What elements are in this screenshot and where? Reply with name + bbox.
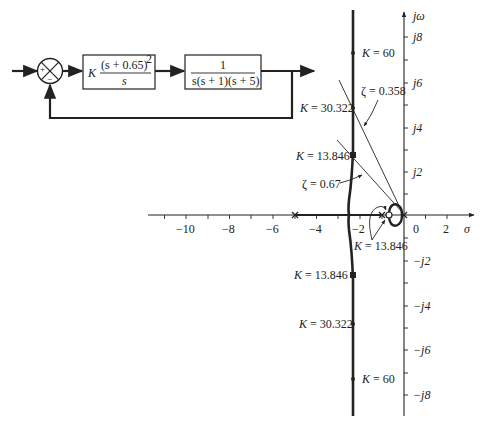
zeta-0358-leader xyxy=(364,100,378,126)
controller-denominator: s xyxy=(122,74,127,88)
zeta-067-label: ζ = 0.67 xyxy=(302,177,341,191)
block-diagram xyxy=(12,55,314,118)
plant-denominator: s(s + 1)(s + 5) xyxy=(192,74,260,88)
x-tick-label: 0 xyxy=(413,222,419,236)
x-tick-label: −8 xyxy=(222,222,235,236)
zero-marker-icon xyxy=(386,212,392,218)
x-tick-label: −10 xyxy=(176,222,195,236)
y-tick-label: j4 xyxy=(411,121,422,135)
x-tick-label: −4 xyxy=(309,222,322,236)
y-tick-label: −j6 xyxy=(413,343,430,357)
zeta-0358-line xyxy=(339,80,402,212)
k60-lower-label: K = 60 xyxy=(361,372,395,386)
x-tick-label: −2 xyxy=(352,222,365,236)
k13-real-label: K = 13.846 xyxy=(353,239,408,253)
y-tick-label: −j8 xyxy=(413,388,430,402)
imaginary-axis-label: jω xyxy=(411,9,425,23)
y-tick-label: −j4 xyxy=(413,299,430,313)
k60-upper-label: K = 60 xyxy=(361,46,395,60)
k13-lower-marker xyxy=(350,272,356,278)
plus-sign: + xyxy=(40,64,45,74)
lower-complex-branch xyxy=(349,215,354,416)
annotation-leaders xyxy=(340,100,386,240)
k13-lower-label: K = 13.846 xyxy=(293,268,348,282)
x-tick-label: 2 xyxy=(443,222,449,236)
y-tick-label: j8 xyxy=(411,30,422,44)
controller-numerator: (s + 0.65) xyxy=(101,58,147,72)
plant-numerator: 1 xyxy=(220,58,226,72)
controller-exponent: 2 xyxy=(146,52,152,66)
y-tick-label: j2 xyxy=(411,165,422,179)
controller-gain: K xyxy=(87,66,97,80)
k30-lower-label: K = 30.322 xyxy=(298,317,353,331)
y-tick-label: j6 xyxy=(411,76,422,90)
k13-real-leader-lower xyxy=(372,220,385,240)
zeta-0358-label: ζ = 0.358 xyxy=(361,84,406,98)
k13-upper-label: K = 13.846 xyxy=(295,149,350,163)
minus-sign: − xyxy=(47,74,52,84)
k30-upper-label: K = 30.322 xyxy=(299,101,354,115)
k13-real-leader-upper xyxy=(370,206,386,240)
real-axis-label: σ xyxy=(464,222,471,236)
root-locus-figure: + − K (s + 0.65) 2 s 1 s(s + 1)(s + 5) xyxy=(0,0,482,430)
x-tick-label: −6 xyxy=(266,222,279,236)
y-tick-label: −j2 xyxy=(413,254,430,268)
k60-upper-marker xyxy=(351,51,355,55)
k13-upper-marker xyxy=(350,152,356,158)
k60-lower-marker xyxy=(351,377,355,381)
